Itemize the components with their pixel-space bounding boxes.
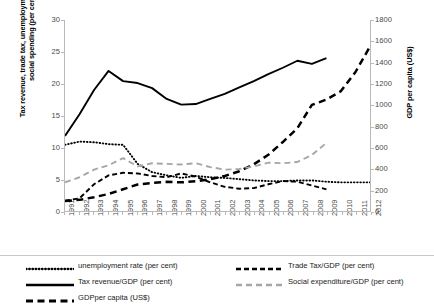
y-tick-left-label: 0 (34, 208, 60, 216)
chart-legend: unemployment rate (per cent)Trade Tax/GD… (0, 255, 434, 307)
y-tick-right-mark (371, 63, 374, 64)
x-tick-mark (269, 212, 270, 215)
legend-swatch (26, 297, 74, 302)
series-lines (65, 20, 370, 211)
y-tick-right-mark (371, 84, 374, 85)
y-tick-right-label: 1800 (375, 16, 403, 24)
x-tick-mark (298, 212, 299, 215)
x-tick-mark (122, 212, 123, 215)
x-tick-mark (283, 212, 284, 215)
x-tick-mark (254, 212, 255, 215)
y-tick-right-mark (371, 169, 374, 170)
x-tick-label: 2012 (374, 200, 383, 216)
x-tick-mark (371, 212, 372, 215)
series-line (65, 142, 370, 183)
series-line (65, 173, 326, 201)
x-tick-mark (239, 212, 240, 215)
y-tick-left-label: 10 (34, 144, 60, 152)
legend-label: Trade Tax/GDP (per cent) (288, 261, 374, 270)
y-tick-right-label: 1400 (375, 59, 403, 67)
series-line (65, 58, 326, 136)
x-tick-mark (181, 212, 182, 215)
series-line (65, 47, 370, 201)
y-tick-left-label: 5 (34, 176, 60, 184)
legend-swatch (236, 281, 284, 286)
legend-label: unemployment rate (per cent) (78, 261, 178, 270)
y-tick-right-mark (371, 20, 374, 21)
y-tick-right-label: 200 (375, 187, 403, 195)
x-tick-mark (210, 212, 211, 215)
legend-label: Tax revenue/GDP (per cent) (78, 277, 172, 286)
x-tick-mark (166, 212, 167, 215)
y-tick-left-label: 25 (34, 48, 60, 56)
y-tick-right-label: 800 (375, 123, 403, 131)
x-tick-mark (93, 212, 94, 215)
legend-swatch (236, 265, 284, 270)
y-tick-right-mark (371, 41, 374, 42)
y-tick-right-mark (371, 127, 374, 128)
y-tick-left-label: 15 (34, 112, 60, 120)
y-axis-right-title: GDP per capita (US$) (405, 23, 414, 143)
legend-label: Social expenditure/GDP (per cent) (288, 277, 404, 286)
x-tick-mark (327, 212, 328, 215)
y-tick-right-label: 1000 (375, 101, 403, 109)
y-tick-right-mark (371, 148, 374, 149)
x-tick-mark (108, 212, 109, 215)
y-tick-right-label: 1200 (375, 80, 403, 88)
x-tick-mark (313, 212, 314, 215)
x-tick-mark (196, 212, 197, 215)
x-tick-mark (225, 212, 226, 215)
y-tick-right-mark (371, 191, 374, 192)
y-tick-right-label: 1600 (375, 37, 403, 45)
x-tick-mark (342, 212, 343, 215)
y-tick-left-label: 20 (34, 80, 60, 88)
chart-figure: Tax revenue, trade tax, unemployment rat… (0, 0, 434, 307)
y-tick-left-label: 30 (34, 16, 60, 24)
legend-swatch (26, 281, 74, 286)
x-tick-mark (137, 212, 138, 215)
y-tick-right-label: 400 (375, 165, 403, 173)
y-tick-right-mark (371, 105, 374, 106)
legend-label: GDPper capita (US$) (78, 293, 150, 302)
y-tick-right-label: 600 (375, 144, 403, 152)
x-tick-mark (64, 212, 65, 215)
x-tick-mark (152, 212, 153, 215)
plot-area (64, 20, 371, 212)
legend-swatch (26, 265, 74, 270)
x-tick-mark (79, 212, 80, 215)
x-tick-mark (356, 212, 357, 215)
